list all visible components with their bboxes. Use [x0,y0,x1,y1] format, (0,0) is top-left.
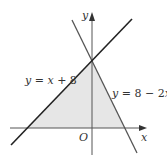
label-line-y-equals-8-minus-2x: y = 8 − 2x [111,87,167,100]
coordinate-plane: y = x + 8 y = 8 − 2x y x O [0,0,167,160]
diagram-canvas: y = x + 8 y = 8 − 2x y x O [0,0,167,160]
label-line-y-equals-x-plus-8: y = x + 8 [24,74,77,87]
y-axis-arrow-icon [89,12,95,21]
label-y-axis: y [81,9,89,22]
label-x-axis: x [141,131,148,144]
label-origin: O [79,131,88,144]
shaded-feasible-region [27,62,125,128]
